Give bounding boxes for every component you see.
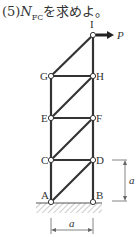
svg-text:E: E — [41, 112, 48, 124]
svg-text:I: I — [90, 18, 94, 30]
dimension-horizontal-label: a — [69, 217, 75, 229]
load-label: P — [116, 29, 124, 41]
truss-members — [51, 35, 93, 202]
svg-text:A: A — [41, 189, 49, 201]
svg-text:C: C — [41, 154, 48, 166]
dimension-vertical — [112, 160, 127, 201]
svg-text:G: G — [40, 70, 48, 82]
load-arrow-icon — [96, 31, 114, 39]
dimension-vertical-label: a — [129, 174, 135, 186]
svg-text:D: D — [96, 154, 104, 166]
node-labels: I G H E F C D A B — [40, 18, 104, 201]
svg-text:H: H — [96, 70, 104, 82]
svg-text:B: B — [96, 189, 103, 201]
truss-diagram: P I G H E F C D A B a a — [0, 0, 140, 237]
svg-text:F: F — [96, 112, 102, 124]
